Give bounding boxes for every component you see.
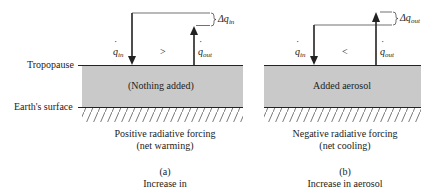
panel-a-graphic [78,13,243,122]
tropopause-label: Tropopause [27,60,74,70]
caption-a: Positive radiative forcing (net warming) [100,128,230,152]
subtitle-b: (b) Increase in aerosol [280,166,410,190]
brace-icon [211,13,216,26]
q-out-label-b: qout [380,46,394,59]
caption-b: Negative radiative forcing (net cooling) [280,128,410,152]
delta-q-in-label: Δqin [218,13,234,26]
layer-text-b: Added aerosol [313,81,371,91]
delta-q-out-label: Δqout [400,12,420,25]
panel-b-graphic [264,12,421,122]
ground-hatch-a [82,108,243,122]
q-in-label-b: qin [295,46,305,59]
q-in-label-a: qin [113,46,123,59]
subtitle-a: (a) Increase in [100,166,230,190]
comparison-symbol-a: > [160,47,166,57]
q-out-label-a: qout [198,46,212,59]
brace-icon [393,12,398,25]
layer-text-a: (Nothing added) [128,81,194,91]
comparison-symbol-b: < [342,47,348,57]
ground-hatch-b [264,108,421,122]
radiative-forcing-diagram [0,0,436,194]
earth-surface-label: Earth's surface [14,102,73,112]
